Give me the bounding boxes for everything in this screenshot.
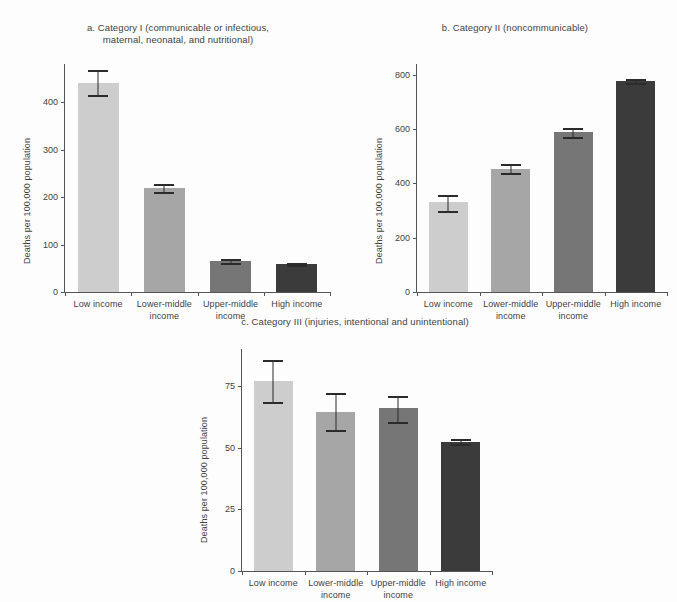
panel-c-xtick-4 — [492, 571, 493, 575]
bar[interactable] — [276, 264, 317, 292]
panel-a-ytick-3 — [61, 150, 65, 151]
error-cap-bottom — [221, 263, 241, 265]
error-cap-top — [263, 360, 283, 362]
panel-b-bar-slot-2 — [480, 64, 543, 292]
bar[interactable] — [254, 381, 293, 571]
panel-a-xtick-4 — [330, 292, 331, 296]
error-cap-top — [221, 259, 241, 261]
panel-a-axes: 0 100 200 300 400 Low income Lower-middl… — [64, 64, 330, 293]
error-cap-top — [501, 164, 521, 166]
panel-a-bar-slot-4 — [264, 64, 330, 292]
error-cap-bottom — [451, 444, 471, 446]
panel-category-iii: c. Category III (injuries, intentional a… — [180, 316, 530, 602]
bar[interactable] — [616, 81, 655, 292]
panel-b-ytick-1 — [413, 238, 417, 239]
bar[interactable] — [429, 202, 468, 292]
error-cap-top — [388, 396, 408, 398]
panel-c-ylabel: Deaths per 100,000 population — [199, 417, 209, 543]
bar[interactable] — [379, 408, 418, 571]
panel-a-ytick-1 — [61, 245, 65, 246]
panel-b-ytick-2 — [413, 183, 417, 184]
bar[interactable] — [316, 412, 355, 571]
xlabel: Low income — [242, 571, 305, 601]
panel-b-ytick-label-1: 200 — [395, 233, 410, 243]
bar[interactable] — [144, 188, 185, 292]
xlabel: Upper-middle income — [367, 571, 430, 601]
panel-b-ytick-4 — [413, 75, 417, 76]
error-cap-top — [451, 439, 471, 441]
error-cap-bottom — [263, 402, 283, 404]
panel-b-title: b. Category II (noncommunicable) — [360, 22, 670, 34]
panel-a-bar-slot-3 — [198, 64, 264, 292]
panel-b-bar-slot-1 — [417, 64, 480, 292]
error-bar — [335, 393, 336, 430]
xlabel: High income — [430, 571, 493, 601]
panel-c-bar-slot-1 — [242, 349, 305, 571]
panel-c-ytick-label-3: 75 — [225, 381, 235, 391]
bar[interactable] — [210, 261, 251, 292]
panel-c-bar-slot-2 — [305, 349, 368, 571]
error-cap-bottom — [388, 422, 408, 424]
panel-a-bars — [65, 64, 330, 292]
panel-a-ytick-label-4: 400 — [43, 97, 58, 107]
error-cap-top — [326, 393, 346, 395]
error-bar — [398, 396, 399, 422]
panel-c-ytick-3 — [238, 386, 242, 387]
panel-c-ytick-label-1: 25 — [225, 504, 235, 514]
panel-a-title: a. Category I (communicable or infectiou… — [8, 22, 348, 46]
panel-b-ytick-label-0: 0 — [405, 287, 410, 297]
panel-a-bar-slot-1 — [65, 64, 131, 292]
panel-b-axes: 0 200 400 600 800 Low income Lower-middl… — [416, 64, 667, 293]
error-bar — [98, 70, 99, 95]
panel-c-bar-slot-3 — [367, 349, 430, 571]
panel-b-bars — [417, 64, 667, 292]
panel-category-ii: b. Category II (noncommunicable) Deaths … — [360, 22, 670, 312]
panel-b-bar-slot-4 — [605, 64, 668, 292]
panel-a-ytick-4 — [61, 102, 65, 103]
xlabel: High income — [605, 292, 668, 322]
panel-b-ytick-3 — [413, 129, 417, 130]
panel-c-ytick-1 — [238, 509, 242, 510]
xlabel: Lower-middle income — [305, 571, 368, 601]
error-cap-top — [154, 184, 174, 186]
xlabel: Low income — [65, 292, 131, 322]
figure-container: a. Category I (communicable or infectiou… — [0, 0, 677, 602]
panel-a-ytick-label-0: 0 — [53, 287, 58, 297]
bar[interactable] — [441, 442, 480, 572]
error-cap-bottom — [501, 173, 521, 175]
error-cap-bottom — [563, 137, 583, 139]
panel-a-ytick-2 — [61, 197, 65, 198]
error-cap-bottom — [154, 192, 174, 194]
error-cap-bottom — [438, 211, 458, 213]
panel-b-ylabel: Deaths per 100,000 population — [374, 138, 384, 264]
panel-a-ytick-label-3: 300 — [43, 145, 58, 155]
error-bar — [273, 360, 274, 402]
error-cap-top — [563, 128, 583, 130]
bar[interactable] — [554, 132, 593, 292]
panel-b-ytick-label-4: 800 — [395, 70, 410, 80]
error-cap-top — [626, 79, 646, 81]
bar[interactable] — [491, 169, 530, 293]
error-cap-bottom — [287, 265, 307, 267]
panel-category-i: a. Category I (communicable or infectiou… — [8, 22, 348, 312]
error-cap-top — [438, 195, 458, 197]
bar[interactable] — [78, 83, 119, 292]
panel-b-xtick-4 — [667, 292, 668, 296]
error-cap-bottom — [88, 95, 108, 97]
panel-c-axes: 0 25 50 75 Low income Lower-middle incom… — [241, 349, 492, 572]
panel-c-ytick-label-0: 0 — [230, 566, 235, 576]
error-cap-bottom — [626, 83, 646, 85]
panel-a-ytick-label-1: 100 — [43, 240, 58, 250]
panel-c-ytick-2 — [238, 448, 242, 449]
panel-c-bars — [242, 349, 492, 571]
xlabel: Upper-middle income — [542, 292, 605, 322]
panel-c-title: c. Category III (injuries, intentional a… — [180, 316, 530, 328]
panel-c-bar-slot-4 — [430, 349, 493, 571]
error-bar — [448, 195, 449, 211]
panel-b-ytick-label-3: 600 — [395, 124, 410, 134]
panel-b-bar-slot-3 — [542, 64, 605, 292]
panel-a-ylabel: Deaths per 100,000 population — [22, 138, 32, 264]
panel-c-xlabels: Low income Lower-middle income Upper-mid… — [242, 571, 492, 601]
panel-c-ytick-label-2: 50 — [225, 443, 235, 453]
panel-b-ytick-label-2: 400 — [395, 178, 410, 188]
